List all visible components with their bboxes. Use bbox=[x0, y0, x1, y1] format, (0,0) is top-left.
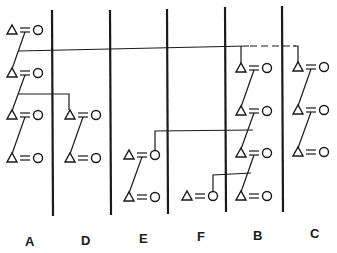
column-dividers bbox=[52, 6, 283, 216]
label-b: B bbox=[253, 228, 262, 243]
divider-e bbox=[167, 9, 168, 214]
divider-f bbox=[225, 7, 226, 212]
connection-lines bbox=[18, 46, 298, 191]
divider-d bbox=[110, 10, 111, 215]
label-a: A bbox=[25, 234, 35, 249]
divider-b bbox=[282, 6, 283, 212]
divider-a bbox=[52, 10, 53, 216]
label-f: F bbox=[197, 229, 205, 244]
label-c: C bbox=[310, 226, 320, 241]
column-f-couples bbox=[182, 191, 218, 201]
link-f-b bbox=[213, 173, 251, 191]
kinship-diagram: A D E F B C bbox=[0, 0, 337, 253]
column-labels: A D E F B C bbox=[25, 226, 320, 249]
column-c-couples bbox=[293, 62, 329, 157]
link-e-b bbox=[155, 130, 253, 150]
label-d: D bbox=[81, 233, 90, 248]
column-b-couples bbox=[236, 63, 272, 201]
link-a-d bbox=[18, 94, 69, 110]
label-e: E bbox=[139, 231, 148, 246]
descent-lines bbox=[12, 32, 311, 193]
